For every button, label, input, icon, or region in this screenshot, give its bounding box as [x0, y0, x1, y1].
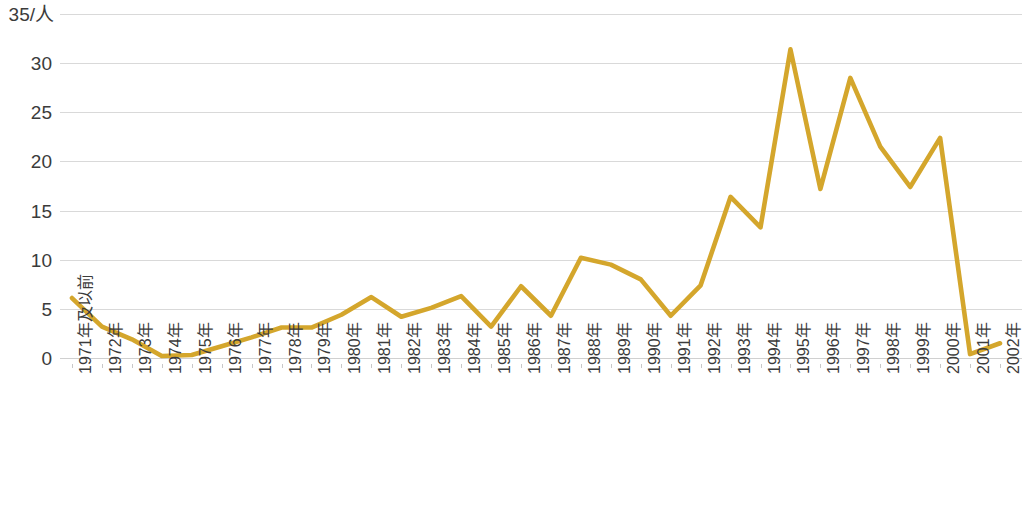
x-axis-label-15: 1986年: [527, 322, 543, 374]
x-axis-tick: [790, 364, 791, 368]
x-axis-tick: [311, 364, 312, 368]
x-axis-tick: [491, 364, 492, 368]
x-axis-label-21: 1992年: [707, 322, 723, 374]
x-axis-tick: [581, 364, 582, 368]
x-axis-tick: [701, 364, 702, 368]
series-polyline: [72, 49, 1000, 356]
x-axis-tick: [671, 364, 672, 368]
x-axis-label-3: 1974年: [168, 322, 184, 374]
x-axis-tick: [641, 364, 642, 368]
x-axis-tick: [820, 364, 821, 368]
x-axis-label-11: 1982年: [407, 322, 423, 374]
x-axis-label-16: 1987年: [557, 322, 573, 374]
x-axis-tick: [910, 364, 911, 368]
x-axis-label-23: 1994年: [767, 322, 783, 374]
x-axis-tick: [521, 364, 522, 368]
x-axis-label-26: 1997年: [856, 322, 872, 374]
x-axis-tick: [162, 364, 163, 368]
x-axis-label-13: 1984年: [467, 322, 483, 374]
x-axis-label-25: 1996年: [826, 322, 842, 374]
x-axis-tick: [850, 364, 851, 368]
x-axis-label-17: 1988年: [587, 322, 603, 374]
x-axis-tick: [341, 364, 342, 368]
x-axis-tick: [401, 364, 402, 368]
x-axis-label-7: 1978年: [288, 322, 304, 374]
x-axis-label-6: 1977年: [258, 322, 274, 374]
x-axis-tick: [731, 364, 732, 368]
x-axis-tick: [431, 364, 432, 368]
x-axis-label-8: 1979年: [317, 322, 333, 374]
x-axis-label-12: 1983年: [437, 322, 453, 374]
x-axis-label-19: 1990年: [647, 322, 663, 374]
x-axis: 1971年及以前1972年1973年1974年1975年1976年1977年19…: [0, 364, 1031, 522]
x-axis-label-0: 1971年及以前: [78, 274, 94, 374]
x-axis-tick: [282, 364, 283, 368]
x-axis-tick: [132, 364, 133, 368]
x-axis-label-14: 1985年: [497, 322, 513, 374]
x-axis-label-24: 1995年: [796, 322, 812, 374]
x-axis-tick: [970, 364, 971, 368]
x-axis-label-2: 1973年: [138, 322, 154, 374]
x-axis-label-20: 1991年: [677, 322, 693, 374]
x-axis-label-27: 1998年: [886, 322, 902, 374]
x-axis-label-9: 1980年: [347, 322, 363, 374]
x-axis-tick: [880, 364, 881, 368]
x-axis-label-30: 2001年: [976, 322, 992, 374]
x-axis-tick: [371, 364, 372, 368]
x-axis-tick: [611, 364, 612, 368]
x-axis-tick: [102, 364, 103, 368]
x-axis-label-10: 1981年: [377, 322, 393, 374]
x-axis-tick: [1000, 364, 1001, 368]
x-axis-label-29: 2000年: [946, 322, 962, 374]
x-axis-tick: [940, 364, 941, 368]
x-axis-tick: [551, 364, 552, 368]
x-axis-tick: [761, 364, 762, 368]
x-axis-label-5: 1976年: [228, 322, 244, 374]
x-axis-tick: [192, 364, 193, 368]
x-axis-label-18: 1989年: [617, 322, 633, 374]
x-axis-label-22: 1993年: [737, 322, 753, 374]
x-axis-tick: [252, 364, 253, 368]
x-axis-label-4: 1975年: [198, 322, 214, 374]
x-axis-tick: [222, 364, 223, 368]
x-axis-tick: [72, 364, 73, 368]
line-chart: 05101520253035/人 1971年及以前1972年1973年1974年…: [0, 0, 1031, 522]
x-axis-label-31: 2002年: [1006, 322, 1022, 374]
x-axis-label-28: 1999年: [916, 322, 932, 374]
x-axis-tick: [461, 364, 462, 368]
x-axis-label-1: 1972年: [108, 322, 124, 374]
